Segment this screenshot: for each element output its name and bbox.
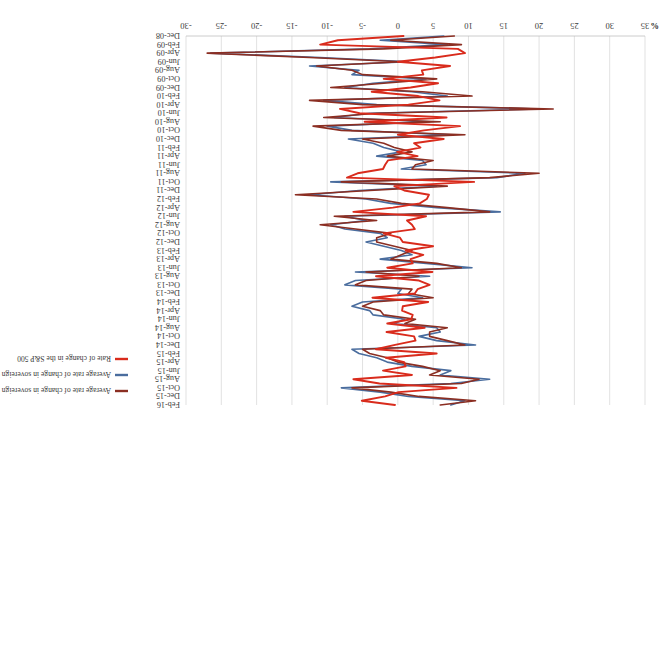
value-tick-label: -30 bbox=[180, 21, 191, 31]
value-tick-label: 35 bbox=[641, 21, 650, 31]
chart-legend: Average rate of change in sovereign CDS … bbox=[0, 354, 128, 395]
value-axis-tick-labels: 35302520151050-5-10-15-20-25-30 bbox=[180, 21, 649, 31]
value-tick-label: 10 bbox=[464, 21, 473, 31]
rotated-figure-wrapper: 35302520151050-5-10-15-20-25-30 Dec-08Fe… bbox=[0, 0, 663, 415]
legend-label: Rate of change in the S&P 500 bbox=[17, 354, 111, 363]
value-tick-label: -10 bbox=[322, 21, 333, 31]
legend-label: Average rate of change in sovereign CDS … bbox=[0, 370, 111, 379]
value-tick-label: 15 bbox=[500, 21, 509, 31]
chart-figure: 35302520151050-5-10-15-20-25-30 Dec-08Fe… bbox=[0, 0, 663, 415]
value-tick-label: 0 bbox=[396, 21, 400, 31]
series-lines-group bbox=[207, 36, 553, 405]
value-tick-label: 5 bbox=[431, 21, 435, 31]
value-tick-label: 20 bbox=[535, 21, 544, 31]
value-tick-label: 25 bbox=[570, 21, 579, 31]
value-axis-unit-label: % bbox=[651, 21, 660, 31]
category-axis-tick-labels: Dec-08Feb-09Apr-09Jun-09Aug-09Oct-09Dec-… bbox=[155, 31, 180, 409]
value-tick-label: -15 bbox=[286, 21, 297, 31]
value-tick-label: -25 bbox=[216, 21, 227, 31]
category-tick-label: Feb-16 bbox=[157, 400, 180, 409]
value-tick-label: 30 bbox=[605, 21, 614, 31]
legend-label: Average rate of change in sovereign CDS … bbox=[0, 386, 111, 395]
line-chart: 35302520151050-5-10-15-20-25-30 Dec-08Fe… bbox=[0, 0, 663, 415]
value-tick-label: -20 bbox=[251, 21, 262, 31]
value-tick-label: -5 bbox=[359, 21, 366, 31]
